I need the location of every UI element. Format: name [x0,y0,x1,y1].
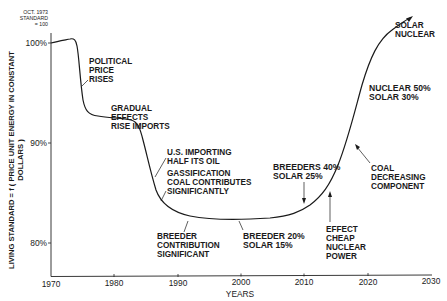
y-tick-100: 100% [26,38,48,48]
x-tick-2030: 2030 [422,276,441,286]
svg-text:CHEAP: CHEAP [326,234,355,243]
annotation-breeder-contribution: BREEDER CONTRIBUTION SIGNIFICANT [157,221,220,259]
svg-text:COAL CONTRIBUTES: COAL CONTRIBUTES [167,178,252,187]
annotation-political-price-rises: POLITICAL PRICE RISES [82,57,132,86]
svg-text:SOLAR 15%: SOLAR 15% [243,240,293,250]
svg-text:COAL: COAL [371,164,394,173]
reference-note: OCT. 1973 STANDARD = 100 [20,9,48,27]
x-tick-1990: 1990 [169,278,188,288]
x-tick-2000: 2000 [232,277,251,287]
svg-text:RISES: RISES [89,75,114,84]
svg-text:NUCLEAR: NUCLEAR [395,30,435,39]
svg-text:= 100: = 100 [35,21,48,27]
svg-text:GRADUAL: GRADUAL [111,104,152,113]
svg-text:COMPONENT: COMPONENT [371,182,424,191]
annotation-nuclear-50-solar-30: NUCLEAR 50% SOLAR 30% [369,83,431,102]
y-ticks: 100% 90% 80% [26,38,51,248]
annotation-gassification: GASSIFICATION COAL CONTRIBUTES SIGNIFICA… [161,169,252,201]
x-axis-label: YEARS [226,289,255,299]
y-tick-90: 90% [30,138,47,148]
y-tick-80: 80% [30,238,47,248]
svg-text:DECREASING: DECREASING [371,173,426,182]
svg-text:POWER: POWER [326,252,357,261]
svg-text:NUCLEAR: NUCLEAR [326,243,366,252]
svg-text:SIGNIFICANTLY: SIGNIFICANTLY [167,187,230,196]
y-axis-label: LIVING STANDARD = f ( PRICE UNIT ENERGY … [7,51,25,269]
x-tick-1980: 1980 [105,278,124,288]
annotation-breeder-20-solar-15: BREEDER 20% SOLAR 15% [239,221,305,250]
living-standard-curve [51,18,410,219]
annotation-solar-nuclear: SOLAR NUCLEAR [395,21,435,39]
svg-text:SOLAR: SOLAR [395,21,424,30]
svg-text:PRICE: PRICE [89,66,115,75]
energy-living-standard-chart: 100% 90% 80% OCT. 1973 STANDARD = 100 LI… [0,0,447,301]
annotation-gradual-effects: GRADUAL EFFECTS RISE IMPORTS [111,104,170,131]
annotation-breeders-40-solar-25: BREEDERS 40% SOLAR 25% [273,162,341,204]
svg-text:BREEDER: BREEDER [157,232,197,241]
svg-text:HALF ITS OIL: HALF ITS OIL [167,157,220,166]
svg-text:EFFECTS: EFFECTS [111,113,149,122]
svg-text:SOLAR 25%: SOLAR 25% [273,171,323,181]
x-tick-2010: 2010 [295,277,314,287]
svg-text:CONTRIBUTION: CONTRIBUTION [157,241,220,250]
svg-text:GASSIFICATION: GASSIFICATION [167,169,231,178]
svg-text:SOLAR 30%: SOLAR 30% [369,92,419,102]
svg-text:LIVING STANDARD = f ( PRICE UN: LIVING STANDARD = f ( PRICE UNIT ENERGY … [7,51,16,269]
svg-text:EFFECT: EFFECT [326,225,358,234]
x-tick-2020: 2020 [359,277,378,287]
svg-text:RISE IMPORTS: RISE IMPORTS [111,122,170,131]
svg-text:U.S. IMPORTING: U.S. IMPORTING [167,148,232,157]
annotation-effect-cheap-nuclear: EFFECT CHEAP NUCLEAR POWER [326,191,366,261]
svg-text:POLITICAL: POLITICAL [89,57,132,66]
svg-text:SIGNIFICANT: SIGNIFICANT [157,250,209,259]
x-tick-1970: 1970 [42,279,61,289]
annotation-coal-decreasing: COAL DECREASING COMPONENT [355,144,426,191]
svg-text:DOLLARS ): DOLLARS ) [16,139,25,181]
